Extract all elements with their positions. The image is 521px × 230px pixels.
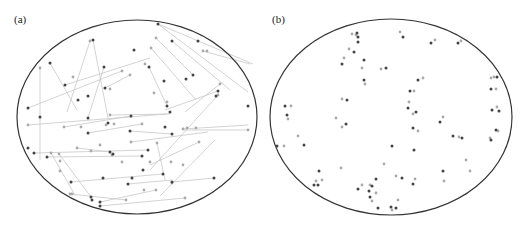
light-node	[496, 106, 499, 109]
dark-node	[430, 42, 433, 45]
light-node	[495, 88, 498, 91]
light-node	[465, 159, 468, 162]
dark-node	[303, 144, 306, 147]
dark-node	[491, 109, 494, 112]
light-node	[375, 192, 378, 195]
dark-node	[461, 137, 464, 140]
light-node	[417, 130, 420, 133]
light-node	[348, 48, 351, 51]
dark-node	[284, 105, 287, 108]
light-node	[321, 179, 324, 182]
light-node	[380, 68, 383, 71]
light-node	[413, 90, 416, 93]
light-node	[341, 98, 344, 101]
dark-node	[415, 111, 418, 114]
light-node	[361, 184, 364, 187]
dark-node	[385, 67, 388, 70]
panel-b-boundary-ellipse	[270, 19, 512, 215]
dark-node	[353, 51, 356, 54]
dark-node	[496, 76, 499, 79]
panel-b-plot	[0, 0, 521, 230]
light-node	[490, 77, 493, 80]
light-node	[395, 175, 398, 178]
panel-b: (b)	[260, 0, 521, 230]
dark-node	[452, 135, 455, 138]
dark-node	[357, 41, 360, 44]
dark-node	[313, 184, 316, 187]
dark-node	[369, 196, 372, 199]
light-node	[442, 116, 445, 119]
light-node	[351, 33, 354, 36]
dark-node	[401, 177, 404, 180]
light-node	[443, 180, 446, 183]
dark-node	[457, 42, 460, 45]
dark-node	[439, 121, 442, 124]
light-node	[399, 31, 402, 34]
light-node	[283, 145, 286, 148]
light-node	[408, 101, 411, 104]
dark-node	[412, 183, 415, 186]
light-node	[458, 136, 461, 139]
dark-node	[346, 99, 349, 102]
light-node	[315, 180, 318, 183]
dark-node	[363, 59, 366, 62]
dark-node	[413, 149, 416, 152]
dark-node	[495, 129, 498, 132]
dark-node	[357, 36, 360, 39]
light-node	[422, 77, 425, 80]
dark-node	[407, 107, 410, 110]
light-node	[414, 178, 417, 181]
dark-node	[363, 79, 366, 82]
dark-node	[409, 90, 412, 93]
dark-node	[341, 63, 344, 66]
dark-node	[317, 184, 320, 187]
dark-node	[490, 139, 493, 142]
light-node	[493, 76, 496, 79]
dark-node	[357, 188, 360, 191]
dark-node	[390, 206, 393, 209]
dark-node	[402, 36, 405, 39]
light-node	[343, 57, 346, 60]
dark-node	[377, 207, 380, 210]
light-node	[469, 170, 472, 173]
light-node	[287, 118, 290, 121]
dark-node	[345, 123, 348, 126]
dark-node	[412, 127, 415, 130]
dark-node	[395, 207, 398, 210]
light-node	[340, 167, 343, 170]
dark-node	[286, 114, 289, 117]
light-node	[364, 83, 367, 86]
light-node	[434, 39, 437, 42]
dark-node	[375, 178, 378, 181]
dark-node	[442, 170, 445, 173]
dark-node	[498, 110, 501, 113]
dark-node	[490, 88, 493, 91]
dark-node	[371, 185, 374, 188]
light-node	[361, 67, 364, 70]
dark-node	[368, 190, 371, 193]
light-node	[290, 105, 293, 108]
light-node	[412, 113, 415, 116]
dark-node	[318, 170, 321, 173]
light-node	[397, 199, 400, 202]
dark-node	[276, 145, 279, 148]
light-node	[391, 209, 394, 212]
panel-b-dark-nodes	[276, 32, 501, 210]
dark-node	[356, 32, 359, 35]
light-node	[297, 135, 300, 138]
light-node	[341, 126, 344, 129]
light-node	[460, 40, 463, 43]
light-node	[335, 117, 338, 120]
light-node	[371, 200, 374, 203]
dark-node	[391, 145, 394, 148]
dark-node	[417, 79, 420, 82]
light-node	[383, 163, 386, 166]
